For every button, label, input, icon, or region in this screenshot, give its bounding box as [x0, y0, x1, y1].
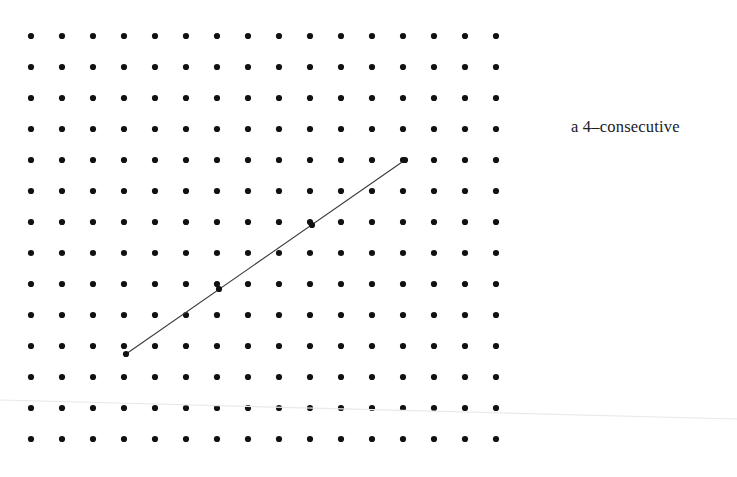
lattice-dot	[90, 343, 96, 349]
lattice-dot	[493, 188, 499, 194]
lattice-dot	[462, 33, 468, 39]
lattice-dot	[214, 374, 220, 380]
lattice-dot	[276, 188, 282, 194]
lattice-dot	[183, 188, 189, 194]
lattice-dot	[183, 374, 189, 380]
lattice-dot	[276, 374, 282, 380]
lattice-dot	[28, 95, 34, 101]
lattice-dot	[493, 405, 499, 411]
lattice-dot	[307, 64, 313, 70]
lattice-dot	[245, 281, 251, 287]
lattice-dot	[400, 188, 406, 194]
lattice-dot	[152, 312, 158, 318]
lattice-dot	[276, 33, 282, 39]
lattice-dot	[59, 64, 65, 70]
lattice-dot	[183, 343, 189, 349]
lattice-dot	[28, 33, 34, 39]
lattice-dot	[214, 436, 220, 442]
lattice-dot	[338, 219, 344, 225]
lattice-dot	[462, 219, 468, 225]
lattice-dot	[400, 436, 406, 442]
scanner-streak-group	[0, 400, 737, 419]
lattice-dot	[338, 126, 344, 132]
lattice-dot	[28, 281, 34, 287]
lattice-dot	[276, 281, 282, 287]
lattice-dot	[183, 281, 189, 287]
figure-canvas: a 4–consecutive	[0, 0, 737, 477]
lattice-dot	[90, 250, 96, 256]
lattice-dot	[431, 126, 437, 132]
lattice-dot	[152, 126, 158, 132]
lattice-dot	[431, 405, 437, 411]
lattice-dot	[214, 343, 220, 349]
lattice-dot	[369, 343, 375, 349]
lattice-dot	[245, 343, 251, 349]
lattice-dot	[369, 436, 375, 442]
lattice-dot	[462, 64, 468, 70]
lattice-dot	[431, 436, 437, 442]
lattice-dot	[400, 33, 406, 39]
consecutive-segment-line	[126, 160, 405, 354]
lattice-dot	[462, 405, 468, 411]
lattice-dot	[369, 95, 375, 101]
lattice-dot	[276, 436, 282, 442]
lattice-dot	[28, 343, 34, 349]
lattice-dot	[276, 343, 282, 349]
lattice-dot	[59, 250, 65, 256]
lattice-dot	[400, 126, 406, 132]
lattice-dot	[307, 188, 313, 194]
lattice-dot	[121, 312, 127, 318]
lattice-dot	[462, 436, 468, 442]
lattice-dot	[121, 157, 127, 163]
lattice-dot	[493, 33, 499, 39]
segment-marked-point	[309, 222, 315, 228]
lattice-dot	[462, 312, 468, 318]
lattice-dot	[28, 250, 34, 256]
lattice-dot	[431, 312, 437, 318]
lattice-dot	[90, 312, 96, 318]
lattice-dot	[183, 436, 189, 442]
lattice-dot	[276, 312, 282, 318]
lattice-dot	[59, 219, 65, 225]
lattice-dot	[152, 281, 158, 287]
lattice-dot	[183, 126, 189, 132]
lattice-dot	[245, 188, 251, 194]
lattice-dot	[338, 188, 344, 194]
lattice-dot	[59, 157, 65, 163]
lattice-dot	[121, 188, 127, 194]
lattice-dot	[214, 64, 220, 70]
lattice-dot	[183, 219, 189, 225]
lattice-dot	[338, 281, 344, 287]
lattice-dot	[369, 126, 375, 132]
lattice-dot	[369, 281, 375, 287]
lattice-dot	[462, 374, 468, 380]
lattice-dot	[493, 250, 499, 256]
lattice-dot	[307, 281, 313, 287]
lattice-dot	[28, 436, 34, 442]
lattice-dot	[121, 219, 127, 225]
lattice-dot	[121, 33, 127, 39]
lattice-dot	[90, 281, 96, 287]
lattice-dot	[369, 64, 375, 70]
lattice-dot	[431, 219, 437, 225]
lattice-figure-svg	[0, 0, 737, 477]
lattice-dot	[431, 95, 437, 101]
lattice-dot	[121, 64, 127, 70]
lattice-dot	[462, 157, 468, 163]
lattice-dot	[493, 126, 499, 132]
lattice-dot	[493, 64, 499, 70]
lattice-dot	[59, 33, 65, 39]
lattice-dot	[152, 219, 158, 225]
lattice-dot	[369, 188, 375, 194]
lattice-dot	[462, 250, 468, 256]
lattice-dot	[183, 33, 189, 39]
lattice-dot	[183, 405, 189, 411]
lattice-dot	[28, 64, 34, 70]
lattice-dot	[90, 405, 96, 411]
lattice-dot	[400, 374, 406, 380]
lattice-dot	[245, 126, 251, 132]
lattice-dot	[28, 312, 34, 318]
lattice-dot	[307, 95, 313, 101]
lattice-dot	[400, 312, 406, 318]
lattice-dot	[59, 343, 65, 349]
